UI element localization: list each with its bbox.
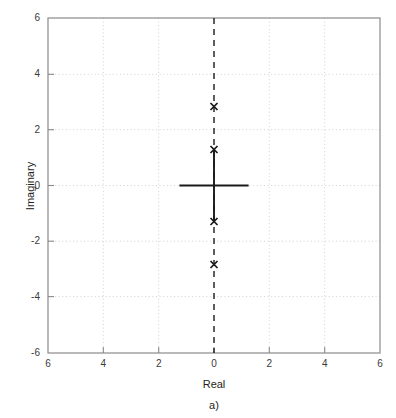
x-tick-label-4: 4 bbox=[322, 359, 328, 369]
y-axis-ticks bbox=[48, 74, 54, 296]
y-axis-label: Imaginary bbox=[24, 162, 36, 210]
y-tick-label-6: 6 bbox=[18, 13, 40, 23]
x-tick-label-6: 6 bbox=[377, 359, 383, 369]
y-tick-label-neg4: -4 bbox=[18, 292, 40, 302]
figure-caption: a) bbox=[209, 399, 219, 411]
x-tick-label-neg2: 2 bbox=[156, 359, 162, 369]
x-tick-label-neg6: 6 bbox=[45, 359, 51, 369]
y-tick-label-4: 4 bbox=[18, 69, 40, 79]
plot-canvas bbox=[0, 0, 396, 418]
x-tick-label-2: 2 bbox=[267, 359, 273, 369]
y-tick-label-2: 2 bbox=[18, 125, 40, 135]
figure-panel: 6 4 2 0 2 4 6 6 4 2 0 -2 -4 -6 Real Imag… bbox=[0, 0, 396, 418]
x-axis-label: Real bbox=[203, 378, 226, 390]
y-tick-label-neg2: -2 bbox=[18, 236, 40, 246]
y-tick-label-neg6: -6 bbox=[18, 348, 40, 358]
x-tick-label-neg4: 4 bbox=[101, 359, 107, 369]
x-tick-label-0: 0 bbox=[211, 359, 217, 369]
